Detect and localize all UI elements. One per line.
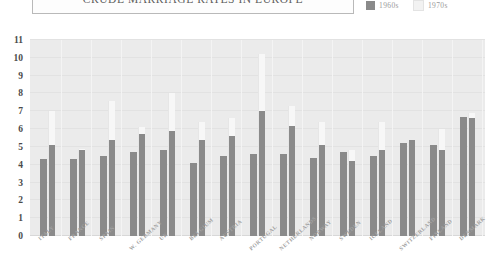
bar-1970s[interactable] (318, 122, 325, 236)
bar-1960s[interactable] (400, 143, 407, 236)
bar-group (242, 40, 272, 236)
bar-groups (30, 40, 485, 236)
bar-group (393, 40, 423, 236)
y-axis: 01234567891011 (0, 40, 28, 236)
bar-group (122, 40, 152, 236)
y-axis-tick-label: 3 (18, 178, 23, 188)
bar-1970s-base (169, 131, 175, 236)
x-axis: ITALYFRANCESPAINW. GERMANYUKBELGIUMAUSTR… (30, 237, 485, 280)
bar-1970s-base (259, 111, 265, 236)
plot-area (30, 40, 485, 236)
y-axis-tick-label: 5 (18, 142, 23, 152)
bar-1970s-base (49, 145, 55, 236)
bar-1970s-base (409, 140, 415, 236)
bar-group (152, 40, 182, 236)
legend-label-1960s: 1960s (379, 1, 399, 10)
y-axis-tick-label: 1 (18, 213, 23, 223)
chart-legend: 1960s 1970s (366, 0, 448, 11)
legend-item-1960s[interactable]: 1960s (366, 1, 399, 10)
bar-1970s[interactable] (108, 101, 115, 236)
legend-item-1970s[interactable]: 1970s (413, 0, 448, 11)
y-axis-tick-label: 8 (18, 88, 23, 98)
title-box: CRUDE MARRIAGE RATES IN EUROPE (32, 0, 354, 14)
bar-1960s[interactable] (100, 156, 107, 236)
bar-group (32, 40, 62, 236)
bar-group (212, 40, 242, 236)
y-axis-tick-label: 9 (18, 71, 23, 81)
bar-1960s[interactable] (190, 163, 197, 236)
bar-1970s[interactable] (228, 118, 235, 236)
bar-group (92, 40, 122, 236)
y-axis-tick-label: 11 (14, 35, 23, 45)
chart-header: CRUDE MARRIAGE RATES IN EUROPE 1960s 197… (0, 0, 489, 20)
legend-swatch-1970s (413, 0, 424, 11)
bar-1970s[interactable] (258, 54, 265, 236)
bar-1960s[interactable] (280, 154, 287, 236)
bar-group (273, 40, 303, 236)
y-axis-tick-label: 2 (18, 195, 23, 205)
legend-label-1970s: 1970s (428, 1, 448, 10)
bar-group (303, 40, 333, 236)
bar-1960s[interactable] (220, 156, 227, 236)
bar-1960s[interactable] (250, 154, 257, 236)
bar-1970s-base (469, 118, 475, 236)
bar-1970s[interactable] (168, 93, 175, 236)
bar-group (62, 40, 92, 236)
bar-1960s[interactable] (460, 117, 467, 236)
bar-1960s[interactable] (40, 159, 47, 236)
y-axis-tick-label: 6 (18, 124, 23, 134)
bar-1970s-base (109, 140, 115, 236)
bar-1970s[interactable] (438, 129, 445, 236)
bar-1970s[interactable] (48, 111, 55, 236)
bar-1970s[interactable] (408, 142, 415, 236)
bar-1970s[interactable] (378, 122, 385, 236)
bar-1970s-base (289, 126, 295, 236)
bar-1960s[interactable] (340, 152, 347, 236)
y-axis-tick-label: 4 (18, 160, 23, 170)
bar-group (333, 40, 363, 236)
y-axis-tick-label: 0 (18, 231, 23, 241)
bar-group (423, 40, 453, 236)
bar-1970s[interactable] (138, 127, 145, 236)
bar-1960s[interactable] (70, 159, 77, 236)
bar-1960s[interactable] (370, 156, 377, 236)
page-title: CRUDE MARRIAGE RATES IN EUROPE (83, 0, 303, 5)
bar-1970s-base (139, 134, 145, 236)
bar-1970s[interactable] (288, 106, 295, 236)
bar-group (182, 40, 212, 236)
bar-group (363, 40, 393, 236)
bar-1960s[interactable] (130, 152, 137, 236)
legend-swatch-1960s (366, 1, 375, 10)
y-axis-tick-label: 7 (18, 106, 23, 116)
bar-1970s[interactable] (468, 113, 475, 236)
bar-group (453, 40, 483, 236)
bar-1970s[interactable] (198, 122, 205, 236)
y-axis-tick-label: 10 (14, 53, 24, 63)
